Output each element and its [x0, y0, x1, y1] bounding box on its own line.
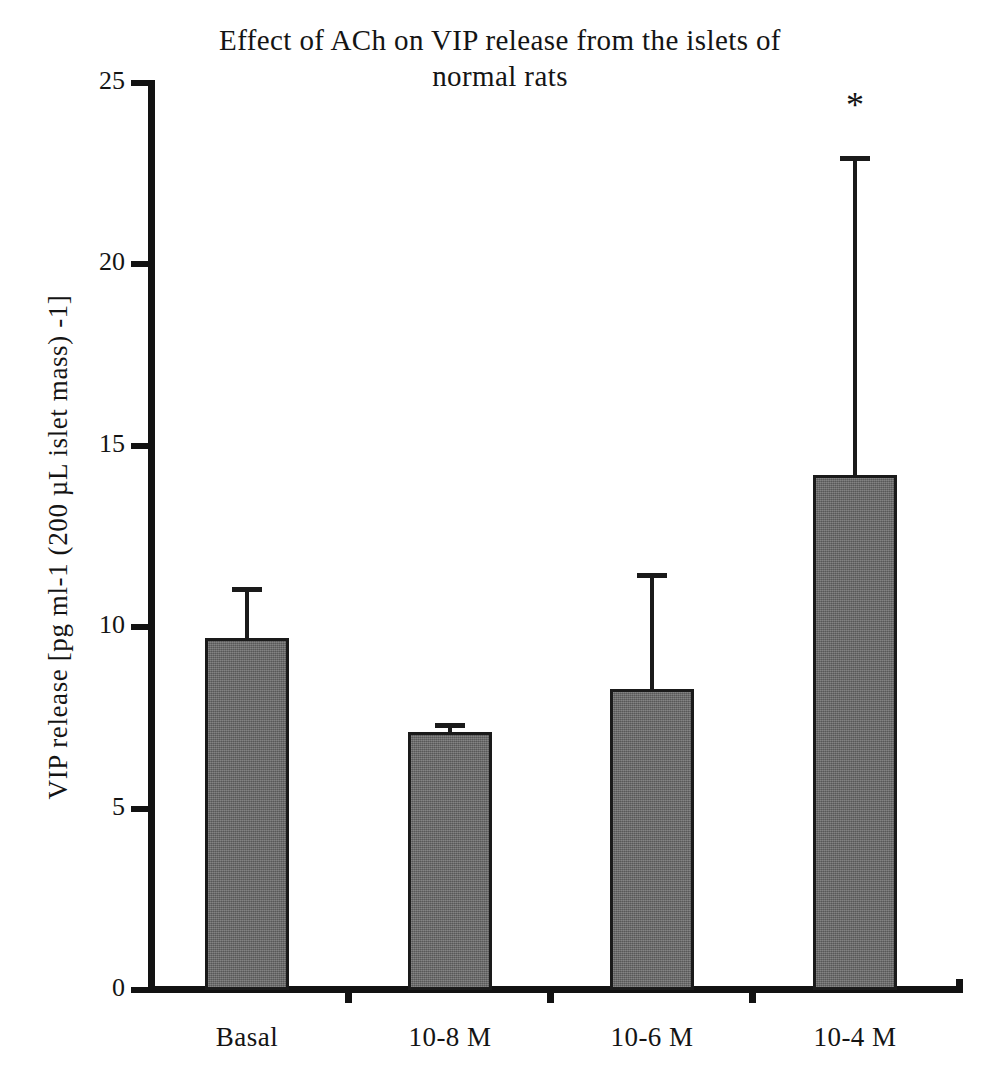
error-bar-cap: [232, 587, 262, 592]
y-axis-tick: [131, 624, 149, 630]
y-axis-tick: [131, 987, 149, 993]
y-axis-tick: [131, 261, 149, 267]
x-axis-right-cap: [956, 979, 963, 993]
bar-10-6-m: [610, 689, 694, 990]
significance-marker: *: [835, 87, 875, 123]
y-axis-tick: [131, 806, 149, 812]
x-axis-tick-label: 10-6 M: [557, 1022, 747, 1053]
bar-basal: [205, 638, 289, 990]
x-axis-tick: [547, 990, 554, 1003]
y-axis-line: [148, 80, 155, 993]
bar-10-4-m: [813, 475, 897, 990]
error-bar-stem: [650, 573, 654, 689]
plot-area: 0510152025 * Basal10-8 M10-6 M10-4 M: [0, 0, 985, 1071]
chart-figure: Effect of ACh on VIP release from the is…: [0, 0, 985, 1071]
x-axis-tick-label: Basal: [152, 1022, 342, 1053]
y-axis-tick-label: 20: [0, 247, 125, 277]
y-axis-tick-label: 10: [0, 610, 125, 640]
bar-10-8-m: [408, 732, 492, 990]
y-axis-tick-label: 15: [0, 429, 125, 459]
x-axis-tick-label: 10-8 M: [355, 1022, 545, 1053]
x-axis-tick: [345, 990, 352, 1003]
y-axis-tick-label: 0: [0, 973, 125, 1003]
error-bar-cap: [637, 573, 667, 578]
error-bar-stem: [853, 156, 857, 475]
y-axis-tick: [131, 443, 149, 449]
error-bar-cap: [840, 156, 870, 161]
y-axis-tick-label: 5: [0, 792, 125, 822]
x-axis-tick: [749, 990, 756, 1003]
y-axis-tick: [131, 80, 149, 86]
x-axis-tick-label: 10-4 M: [760, 1022, 950, 1053]
error-bar-stem: [245, 587, 249, 638]
y-axis-tick-label: 25: [0, 66, 125, 96]
error-bar-cap: [435, 723, 465, 728]
